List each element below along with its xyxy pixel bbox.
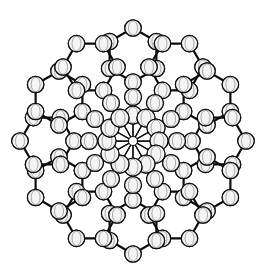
phenyl-carbon-atom [175,76,191,92]
phenyl-carbon-atom [12,133,28,149]
phenyl-carbon-atom [74,189,90,205]
ipso-carbon-atom [125,177,142,194]
phenyl-carbon-atom [25,156,41,172]
phenyl-carbon-atom [125,74,141,90]
phenyl-carbon-atom [199,63,215,79]
phenyl-carbon-atom [222,162,238,178]
molecular-structure-canvas [0,0,271,267]
phenyl-carbon-atom [154,35,170,51]
phenyl-carbon-atom [141,59,157,75]
ipso-carbon-atom [87,155,104,172]
phenyl-carbon-atom [238,133,254,149]
phenyl-carbon-atom [148,205,164,221]
ipso-carbon-atom [125,89,142,106]
ipso-carbon-atom [103,95,120,112]
phenyl-carbon-atom [52,156,68,172]
central-atom [129,137,138,146]
phenyl-carbon-atom [199,149,215,165]
phenyl-carbon-atom [95,35,111,51]
phenyl-carbon-atom [184,133,200,149]
phenyl-carbon-atom [125,246,141,262]
phenyl-carbon-atom [68,230,84,246]
phenyl-carbon-atom [68,82,84,98]
central-atom-group [129,137,138,146]
ipso-carbon-atom [163,155,180,172]
phenyl-carbon-atom [148,232,164,248]
phenyl-carbon-atom [51,117,67,133]
phenyl-carbon-atom [222,189,238,205]
phenyl-carbon-atom [197,109,213,125]
ipso-carbon-atom [147,95,164,112]
phenyl-carbon-atom [222,76,238,92]
ipso-carbon-atom [87,111,104,128]
phenyl-carbon-atom [109,207,125,223]
phenyl-carbon-atom [181,183,197,199]
phenyl-carbon-atom [68,35,84,51]
core-metal-atom [111,109,129,127]
ipso-carbon-atom [163,111,180,128]
ipso-carbon-atom [103,171,120,188]
phenyl-carbon-atom [51,203,67,219]
phenyl-carbon-atom [55,59,71,75]
phenyl-carbon-atom [66,133,82,149]
phenyl-carbon-atom [181,230,197,246]
phenyl-carbon-atom [125,20,141,36]
ipso-carbon-atom [169,133,186,150]
phenyl-carbon-atom [224,109,240,125]
phenyl-carbon-atom [27,103,43,119]
ipso-carbon-atom [147,171,164,188]
phenyl-carbon-atom [125,192,141,208]
phenyl-carbon-atom [95,230,111,246]
molecular-structure-figure [0,0,271,267]
phenyl-carbon-atom [27,189,43,205]
ipso-carbon-atom [81,133,98,150]
phenyl-carbon-atom [109,59,125,75]
phenyl-carbon-atom [27,76,43,92]
phenyl-carbon-atom [195,207,211,223]
phenyl-carbon-atom [181,35,197,51]
figure-background [0,0,271,267]
